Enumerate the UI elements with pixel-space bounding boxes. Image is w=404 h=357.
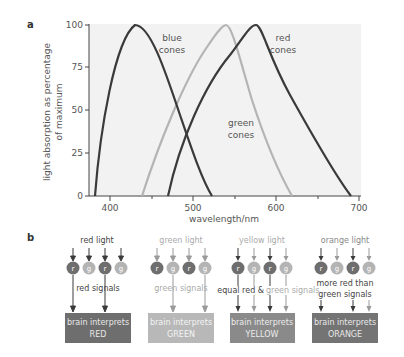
receptor-label: g — [335, 265, 339, 273]
red-light-label: red light — [80, 236, 113, 245]
receptor-label: g — [284, 265, 288, 273]
receptor-label: g — [119, 265, 123, 273]
brain-box-yellow-line2: YELLOW — [245, 330, 279, 339]
x-tick-600: 600 — [267, 203, 284, 213]
y-tick-25: 25 — [72, 148, 83, 158]
blue-cones-label-2: cones — [159, 45, 186, 55]
group-red-light: red light r g r g red signals — [65, 236, 131, 343]
figure: a light absorption as percentage of maxi… — [0, 0, 404, 357]
y-tick-0: 0 — [77, 191, 83, 201]
panel-b: b red light r g r g r — [27, 232, 378, 343]
panel-a-label: a — [27, 19, 34, 30]
group-yellow-light: yellow light r g r g — [217, 236, 319, 343]
receptor-label: r — [237, 265, 240, 273]
receptor-label: g — [203, 265, 207, 273]
brain-box-green-line2: GREEN — [167, 330, 195, 339]
x-tick-400: 400 — [101, 203, 118, 213]
brain-box-green-line1: brain interprets — [150, 318, 212, 327]
green-signals-label: green signals — [154, 284, 207, 293]
y-axis-label-line1: light absorption as percentage — [42, 43, 52, 182]
green-light-label: green light — [159, 236, 202, 245]
green-signals-label: green signals — [266, 286, 319, 295]
red-cones-label-1: red — [276, 33, 291, 43]
receptor-label: g — [171, 265, 175, 273]
receptor-label: r — [104, 265, 107, 273]
x-axis-label: wavelength/nm — [189, 214, 259, 224]
x-ticks: 400 500 600 700 — [101, 196, 367, 213]
panel-b-label: b — [27, 232, 34, 243]
green-cones-label-1: green — [228, 118, 254, 128]
receptor-label: g — [367, 265, 371, 273]
group-orange-light: orange light r g r g more red than green… — [312, 236, 378, 343]
brain-box-red-line1: brain interprets — [67, 318, 129, 327]
receptor-label: r — [320, 265, 323, 273]
brain-box-orange-line1: brain interprets — [314, 318, 376, 327]
receptor-label: g — [252, 265, 256, 273]
receptor-label: g — [87, 265, 91, 273]
x-tick-700: 700 — [350, 203, 367, 213]
y-tick-50: 50 — [72, 105, 84, 115]
receptor-label: r — [72, 265, 75, 273]
blue-cones-label-1: blue — [162, 33, 182, 43]
equal-red-label: equal red & — [217, 286, 264, 295]
y-tick-75: 75 — [72, 62, 83, 72]
receptor-label: r — [269, 265, 272, 273]
brain-box-yellow-line1: brain interprets — [231, 318, 293, 327]
receptor-label: r — [156, 265, 159, 273]
receptor-label: r — [352, 265, 355, 273]
more-red-label: more red than — [316, 279, 373, 288]
orange-light-label: orange light — [321, 236, 369, 245]
y-ticks: 0 25 50 75 100 — [66, 20, 89, 201]
y-tick-100: 100 — [66, 20, 83, 30]
receptor-label: r — [188, 265, 191, 273]
brain-box-red-line2: RED — [90, 330, 107, 339]
y-axis-label-line2: of maximum — [54, 84, 64, 141]
red-cones-label-2: cones — [270, 45, 297, 55]
red-signals-label: red signals — [76, 284, 120, 293]
panel-a: a light absorption as percentage of maxi… — [27, 19, 368, 224]
plot-background — [89, 24, 361, 196]
group-green-light: green light r g r g green signals — [148, 236, 214, 343]
yellow-light-label: yellow light — [239, 236, 285, 245]
green-cones-label-2: cones — [228, 130, 255, 140]
x-tick-500: 500 — [184, 203, 201, 213]
brain-box-orange-line2: ORANGE — [328, 330, 362, 339]
than-green-label: green signals — [318, 290, 371, 299]
